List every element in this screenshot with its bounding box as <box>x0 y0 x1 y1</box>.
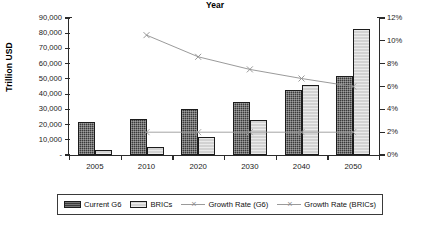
right-tick-label: 4% <box>387 104 417 113</box>
legend-item[interactable]: BRICs <box>130 200 172 209</box>
legend-label: Current G6 <box>84 200 122 209</box>
left-tick-label: 80,000 <box>14 28 62 37</box>
y-axis-title-left: Trillion USD <box>4 31 14 103</box>
right-tick <box>380 63 385 64</box>
right-tick <box>380 86 385 87</box>
x-tick-label: 2040 <box>279 162 325 171</box>
x-tick <box>379 155 380 160</box>
right-tick <box>380 17 385 18</box>
right-tick-label: 12% <box>387 13 417 22</box>
legend-item[interactable]: Current G6 <box>64 200 122 209</box>
right-tick-label: 6% <box>387 82 417 91</box>
growth-rate-brics-marker <box>195 54 201 60</box>
legend-label: Growth Rate (BRICs) <box>304 200 376 209</box>
x-tick-label: 2030 <box>227 162 273 171</box>
legend-swatch-g6 <box>64 201 81 208</box>
right-tick <box>380 40 385 41</box>
gdp-projection-chart: Trillion USD Annual GDP Growth Year 90,0… <box>0 0 430 230</box>
legend-label: Growth Rate (G6) <box>208 200 268 209</box>
x-tick <box>327 155 328 160</box>
right-tick <box>380 154 385 155</box>
left-tick-label: 90,000 <box>14 13 62 22</box>
x-tick-label: 2005 <box>72 162 118 171</box>
right-tick <box>380 109 385 110</box>
legend-line-marker-icon: × <box>277 200 301 209</box>
x-tick-label: 2020 <box>175 162 221 171</box>
right-tick-label: 10% <box>387 36 417 45</box>
x-axis-title: Year <box>0 0 430 10</box>
x-tick <box>69 155 70 160</box>
growth-rate-brics-marker <box>144 32 150 38</box>
legend-item[interactable]: ×Growth Rate (G6) <box>181 200 268 209</box>
left-tick-label: 50,000 <box>14 74 62 83</box>
x-tick <box>172 155 173 160</box>
left-tick-label: 60,000 <box>14 59 62 68</box>
left-tick-label: 40,000 <box>14 89 62 98</box>
left-tick-label: 10,000 <box>14 135 62 144</box>
x-tick <box>276 155 277 160</box>
left-tick-label: 70,000 <box>14 43 62 52</box>
growth-rate-brics-path <box>147 35 354 86</box>
legend-item[interactable]: ×Growth Rate (BRICs) <box>277 200 376 209</box>
x-tick <box>121 155 122 160</box>
x-tick-label: 2010 <box>124 162 170 171</box>
right-tick-label: 2% <box>387 127 417 136</box>
chart-legend: Current G6BRICs×Growth Rate (G6)×Growth … <box>57 194 383 215</box>
legend-label: BRICs <box>150 200 172 209</box>
right-tick <box>380 132 385 133</box>
left-tick-label: 20,000 <box>14 120 62 129</box>
x-tick-label: 2050 <box>330 162 376 171</box>
legend-line-marker-icon: × <box>181 200 205 209</box>
x-tick <box>224 155 225 160</box>
left-tick-label: 30,000 <box>14 104 62 113</box>
right-tick-label: 0% <box>387 150 417 159</box>
plot-area <box>69 18 379 155</box>
right-tick-label: 8% <box>387 59 417 68</box>
growth-rate-lines <box>69 18 379 155</box>
legend-swatch-brics <box>130 201 147 208</box>
left-tick-label: - <box>14 150 62 159</box>
